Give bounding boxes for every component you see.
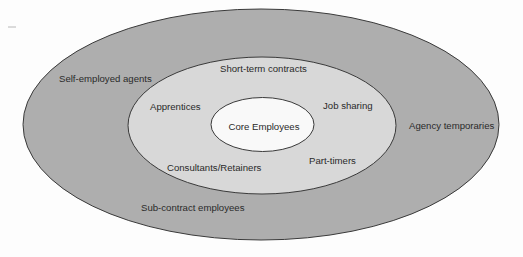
label-short-term-contracts: Short-term contracts — [220, 63, 307, 74]
flexible-firm-diagram: Self-employed agents Agency temporaries … — [0, 0, 523, 257]
label-agency-temporaries: Agency temporaries — [409, 120, 495, 131]
label-consultants-retainers: Consultants/Retainers — [167, 162, 262, 173]
label-core-employees: Core Employees — [229, 121, 300, 132]
label-apprentices: Apprentices — [150, 101, 201, 112]
label-job-sharing: Job sharing — [323, 100, 373, 111]
label-self-employed-agents: Self-employed agents — [59, 73, 152, 84]
label-sub-contract-employees: Sub-contract employees — [141, 202, 245, 213]
label-part-timers: Part-timers — [309, 155, 356, 166]
